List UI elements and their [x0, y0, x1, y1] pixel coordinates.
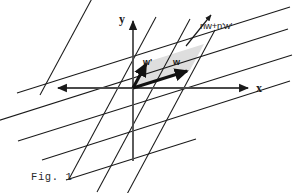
lattice-lines-shallow: [0, 7, 292, 180]
figure-caption: Fig. 1: [31, 172, 72, 183]
lattice-point-label: nw+n'w': [200, 21, 232, 31]
x-axis-label: x: [256, 82, 262, 94]
vector-label-w: w: [173, 58, 180, 67]
lattice-line-steep: [40, 0, 116, 95]
lattice-line-steep: [69, 17, 156, 179]
vector-label-w-prime: w': [143, 58, 152, 67]
figure-container: y x w' w nw+n'w' Fig. 1: [0, 0, 293, 193]
lattice-lines-steep: [40, 0, 215, 193]
lattice-diagram-svg: [0, 0, 293, 193]
lattice-line-shallow: [66, 139, 196, 180]
y-axis-label: y: [119, 13, 125, 25]
